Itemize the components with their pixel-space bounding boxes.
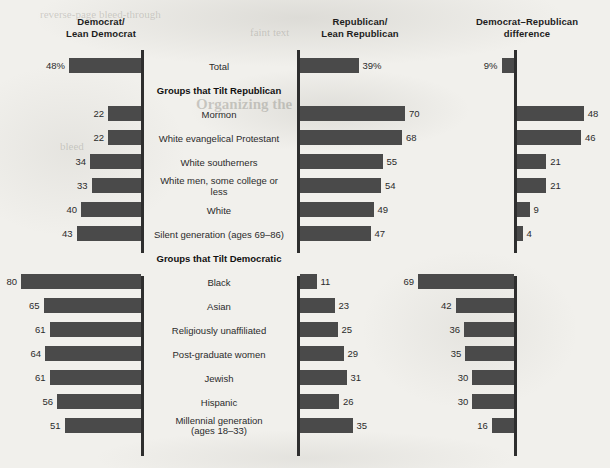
column-header-democrat: Democrat/ Lean Democrat <box>36 16 166 39</box>
bar-difference <box>472 370 514 385</box>
bar-democrat <box>90 154 141 169</box>
value-label-democrat: 56 <box>42 394 53 409</box>
value-label-republican: 70 <box>409 106 420 121</box>
bar-republican <box>300 346 344 361</box>
chart-row: White southerners345521 <box>0 150 610 174</box>
bar-republican <box>300 298 335 313</box>
row-category-label: Black <box>152 270 286 294</box>
section-header-label: Groups that Tilt Republican <box>152 78 286 102</box>
column-header-difference-line2: difference <box>452 28 602 40</box>
chart-row: Asian652342 <box>0 294 610 318</box>
value-label-republican: 47 <box>375 226 386 241</box>
value-label-difference: 9% <box>484 58 498 73</box>
value-label-democrat: 33 <box>77 178 88 193</box>
value-label-republican: 39% <box>363 58 382 73</box>
row-category-label: White southerners <box>152 150 286 174</box>
bar-difference <box>517 130 581 145</box>
bar-republican <box>300 322 338 337</box>
row-category-label: Millennial generation(ages 18–33) <box>152 414 286 438</box>
bar-democrat <box>92 178 142 193</box>
bar-republican <box>300 58 359 73</box>
row-category-label: White evangelical Protestant <box>152 126 286 150</box>
value-label-democrat: 22 <box>93 130 104 145</box>
value-label-republican: 55 <box>387 154 398 169</box>
value-label-democrat: 65 <box>29 298 40 313</box>
value-label-difference: 30 <box>458 370 469 385</box>
value-label-difference: 48 <box>588 106 599 121</box>
value-label-republican: 23 <box>339 298 350 313</box>
bar-democrat <box>45 346 141 361</box>
bar-democrat <box>77 226 142 241</box>
row-category-label: Religiously unaffiliated <box>152 318 286 342</box>
bar-difference <box>465 346 514 361</box>
value-label-difference: 21 <box>550 178 561 193</box>
column-header-difference-line1: Democrat–Republican <box>452 16 602 28</box>
bar-difference <box>492 418 514 433</box>
row-category-label: White men, some college or less <box>152 174 286 198</box>
bar-democrat <box>57 394 141 409</box>
bar-difference <box>472 394 514 409</box>
chart-row: White40499 <box>0 198 610 222</box>
row-category-label: Mormon <box>152 102 286 126</box>
chart-row: Jewish613130 <box>0 366 610 390</box>
bar-republican <box>300 202 374 217</box>
column-header-republican-line2: Lean Republican <box>290 28 430 40</box>
chart-row: Silent generation (ages 69–86)43474 <box>0 222 610 246</box>
bar-difference <box>502 58 515 73</box>
value-label-democrat: 61 <box>35 322 46 337</box>
bar-republican <box>300 370 347 385</box>
value-label-republican: 68 <box>406 130 417 145</box>
bar-difference <box>418 274 514 289</box>
bar-democrat <box>108 130 141 145</box>
value-label-democrat: 64 <box>30 346 41 361</box>
row-category-label: Total <box>152 54 286 78</box>
value-label-difference: 69 <box>404 274 415 289</box>
value-label-democrat: 61 <box>35 370 46 385</box>
bar-difference <box>464 322 514 337</box>
value-label-republican: 35 <box>357 418 368 433</box>
value-label-democrat: 22 <box>93 106 104 121</box>
section-header-row: Groups that Tilt Republican <box>0 78 610 102</box>
bar-difference <box>517 154 546 169</box>
column-header-republican: Republican/ Lean Republican <box>290 16 430 39</box>
chart-row: White men, some college or less335421 <box>0 174 610 198</box>
value-label-republican: 54 <box>385 178 396 193</box>
bar-difference <box>517 178 546 193</box>
row-category-label: Jewish <box>152 366 286 390</box>
bar-republican <box>300 154 383 169</box>
value-label-democrat: 43 <box>62 226 73 241</box>
bar-republican <box>300 130 402 145</box>
bar-democrat <box>69 58 141 73</box>
column-header-democrat-line1: Democrat/ <box>36 16 166 28</box>
column-header-republican-line1: Republican/ <box>290 16 430 28</box>
chart-row: Millennial generation(ages 18–33)513516 <box>0 414 610 438</box>
value-label-republican: 31 <box>351 370 362 385</box>
bar-democrat <box>65 418 142 433</box>
bar-republican <box>300 178 381 193</box>
bar-republican <box>300 226 371 241</box>
bar-difference <box>456 298 514 313</box>
bar-difference <box>517 106 584 121</box>
value-label-republican: 11 <box>321 274 331 289</box>
section-header-label: Groups that Tilt Democratic <box>152 246 286 270</box>
row-category-label: Post-graduate women <box>152 342 286 366</box>
value-label-democrat: 34 <box>75 154 86 169</box>
row-category-label: Asian <box>152 294 286 318</box>
value-label-difference: 46 <box>585 130 596 145</box>
chart-row: Mormon227048 <box>0 102 610 126</box>
chart-row: White evangelical Protestant226846 <box>0 126 610 150</box>
bar-democrat <box>50 322 142 337</box>
value-label-democrat: 51 <box>50 418 61 433</box>
section-header-row: Groups that Tilt Democratic <box>0 246 610 270</box>
column-header-democrat-line2: Lean Democrat <box>36 28 166 40</box>
bar-difference <box>517 226 523 241</box>
bar-difference <box>517 202 530 217</box>
value-label-difference: 21 <box>550 154 561 169</box>
value-label-republican: 29 <box>348 346 359 361</box>
chart-canvas: Democrat/ Lean Democrat Republican/ Lean… <box>0 0 610 468</box>
row-category-label: Silent generation (ages 69–86) <box>152 222 286 246</box>
value-label-difference: 30 <box>458 394 469 409</box>
bar-democrat <box>44 298 142 313</box>
chart-row: Black801169 <box>0 270 610 294</box>
value-label-democrat: 40 <box>66 202 77 217</box>
